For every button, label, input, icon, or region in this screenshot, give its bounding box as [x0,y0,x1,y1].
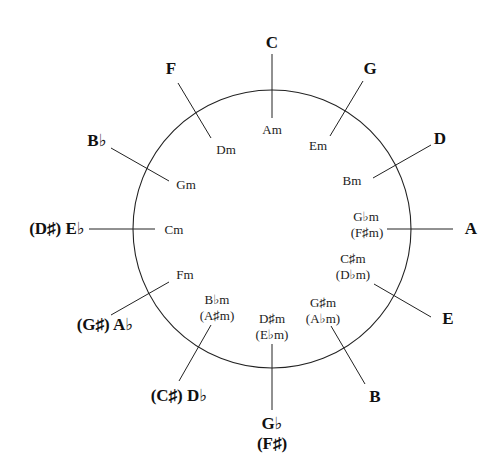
minor-key-cm: Cm [165,222,184,237]
major-key-b: B [369,387,380,406]
major-key-bb: B♭ [87,131,106,150]
minor-key-fsm: (F♯m) [351,225,384,240]
minor-key-gm: Gm [176,177,196,192]
major-key-ab: (G♯) A♭ [77,315,134,334]
major-key-f: F [166,59,176,78]
spoke-bb [111,148,169,181]
major-key-d: D [434,129,446,148]
major-key-c: C [266,33,278,52]
minor-key-dsm: D♯m [259,311,285,326]
spoke-d [373,145,431,178]
spoke-f [178,83,211,138]
spoke-g [330,81,363,136]
minor-key-fm: Fm [176,267,193,282]
major-key-gb: G♭ [261,414,282,433]
minor-key-gbm: G♭m [353,209,379,224]
spoke-b [331,326,365,384]
circle-of-fifths-diagram: C G D A E B G♭ (F♯) (C♯) D♭ (G♯) A♭ (D♯)… [0,0,501,468]
minor-key-bm: Bm [343,173,362,188]
major-key-fs: (F♯) [257,434,287,453]
minor-key-dm: Dm [216,142,236,157]
spoke-e [374,284,431,317]
minor-key-csm: C♯m [340,251,365,266]
minor-key-bbm: B♭m [205,292,230,307]
major-key-a: A [465,219,478,238]
major-key-e: E [442,309,453,328]
major-key-eb: (D♯) E♭ [29,219,85,238]
minor-key-abm: (A♭m) [306,311,340,326]
minor-key-am: Am [262,122,282,137]
minor-key-gsm: G♯m [310,295,336,310]
spoke-ab [111,282,169,315]
major-key-g: G [363,59,376,78]
minor-key-ebm: (E♭m) [256,327,289,342]
major-key-db: (C♯) D♭ [151,386,208,405]
minor-key-asm: (A♯m) [200,308,235,323]
minor-key-em: Em [309,138,327,153]
spoke-db [179,325,211,381]
minor-key-dbm: (D♭m) [336,267,370,282]
